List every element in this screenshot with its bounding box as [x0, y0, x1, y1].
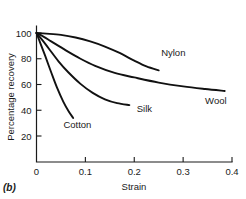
figure-panel: 00.10.20.30.4 20406080100 NylonWoolSilkC… [0, 0, 246, 199]
x-axis-ticks [85, 157, 232, 162]
series-label-silk: Silk [137, 103, 153, 114]
y-tick-label: 80 [21, 53, 32, 64]
axes-group [37, 26, 233, 162]
series-label-wool: Wool [205, 95, 226, 106]
x-axis-tick-labels: 00.10.20.30.4 [34, 166, 239, 177]
data-curves-group [37, 33, 225, 118]
panel-label: (b) [3, 182, 16, 193]
curve-cotton [37, 33, 74, 118]
x-tick-label: 0.3 [177, 166, 190, 177]
y-tick-label: 60 [21, 79, 32, 90]
y-axis-tick-labels: 20406080100 [16, 28, 32, 142]
series-label-nylon: Nylon [161, 47, 185, 58]
curve-wool [37, 33, 225, 91]
y-axis-ticks [37, 33, 42, 136]
y-tick-label: 40 [21, 105, 32, 116]
y-tick-label: 100 [16, 28, 32, 39]
recovery-vs-strain-chart: 00.10.20.30.4 20406080100 NylonWoolSilkC… [0, 0, 246, 199]
x-tick-label: 0.1 [79, 166, 92, 177]
curve-nylon [37, 33, 159, 70]
x-tick-label: 0.2 [128, 166, 141, 177]
series-label-cotton: Cotton [63, 119, 91, 130]
y-tick-label: 20 [21, 131, 32, 142]
x-axis-title: Strain [122, 181, 147, 192]
y-axis-title: Percentage recovery [5, 53, 16, 141]
axis-lines [37, 26, 233, 162]
x-tick-label: 0 [34, 166, 39, 177]
x-tick-label: 0.4 [225, 166, 238, 177]
